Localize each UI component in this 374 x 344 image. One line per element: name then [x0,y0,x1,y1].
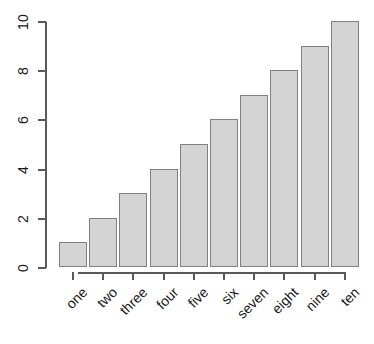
bar-chart: 0246810 onetwothreefourfivesixseveneight… [0,0,374,344]
x-axis-tick [344,272,346,280]
bar [89,218,117,267]
y-axis-tick-label-wrap: 6 [6,111,36,129]
x-axis-line [78,272,345,274]
y-axis-tick [38,218,46,220]
y-axis-tick [38,70,46,72]
y-axis-tick-label-wrap: 8 [6,62,36,80]
y-axis-tick-label: 10 [16,9,30,35]
bar [210,119,238,267]
y-axis-tick-label: 2 [16,206,30,232]
y-axis-line [45,22,47,268]
bar [331,21,359,267]
x-axis-tick [223,272,225,280]
bar [301,46,329,267]
y-axis-tick [38,21,46,23]
plot-area [59,22,361,267]
y-axis-tick [38,169,46,171]
y-axis-tick-label: 8 [16,58,30,84]
bar [119,193,147,267]
y-axis-tick-label-wrap: 2 [6,210,36,228]
y-axis-tick-label: 6 [16,107,30,133]
y-axis-tick-label-wrap: 0 [6,259,36,277]
x-axis-tick [283,272,285,280]
x-axis-tick [102,272,104,280]
bar [180,144,208,267]
bar [270,70,298,267]
y-axis-tick-label: 0 [16,255,30,281]
x-axis-tick [72,272,74,280]
y-axis-tick-label-wrap: 4 [6,161,36,179]
x-axis-tick-label-wrap: ten [283,284,353,304]
y-axis-tick [38,119,46,121]
y-axis-tick [38,267,46,269]
x-axis-tick [314,272,316,280]
y-axis-tick-label-wrap: 10 [6,13,36,31]
bar [59,242,87,267]
x-axis-tick [193,272,195,280]
x-axis-tick [132,272,134,280]
x-axis-tick [163,272,165,280]
x-axis-tick [253,272,255,280]
bar [240,95,268,267]
bar [150,169,178,267]
y-axis-tick-label: 4 [16,157,30,183]
